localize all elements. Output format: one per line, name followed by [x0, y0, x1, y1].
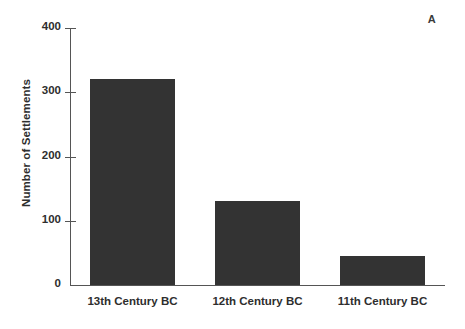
x-axis-line: [70, 285, 445, 286]
y-axis-title-text: Number of Settlements: [20, 79, 32, 207]
y-axis-tick-mark: [65, 92, 76, 93]
panel-label: A: [428, 13, 436, 25]
y-axis-tick-label: 400: [42, 20, 61, 32]
y-axis-tick-mark: [65, 157, 76, 158]
y-axis-tick-mark: [65, 221, 76, 222]
x-axis-label: 13th Century BC: [70, 295, 195, 307]
plot-area: 0100200300400 13th Century BC12th Centur…: [70, 28, 445, 285]
y-axis-tick-label: 100: [42, 213, 61, 225]
y-axis-tick-label: 300: [42, 84, 61, 96]
y-axis-tick-mark: [65, 28, 76, 29]
x-axis-label: 12th Century BC: [195, 295, 320, 307]
y-axis-tick-label: 0: [55, 277, 61, 289]
bar: [340, 256, 425, 285]
bar: [90, 79, 175, 285]
x-axis-label: 11th Century BC: [320, 295, 445, 307]
bar-chart-figure: A Number of Settlements 0100200300400 13…: [0, 0, 465, 329]
y-axis-title: Number of Settlements: [18, 0, 34, 285]
y-axis-tick-label: 200: [42, 149, 61, 161]
bar: [215, 201, 300, 285]
